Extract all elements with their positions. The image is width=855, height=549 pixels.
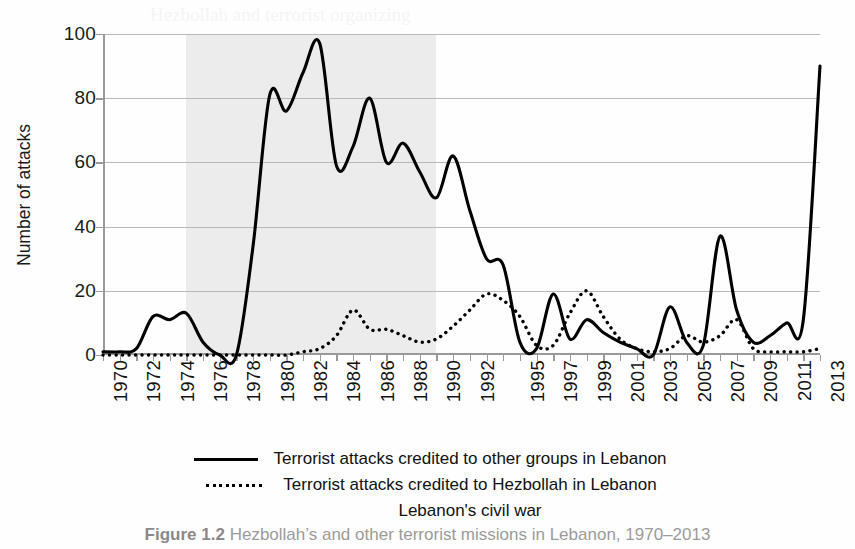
legend-label-civil-war: Lebanon's civil war	[398, 501, 541, 521]
figure-number: Figure 1.2	[145, 525, 225, 544]
x-axis-tick-label: 2001	[627, 360, 649, 402]
y-axis-tick	[96, 291, 103, 292]
legend-label-hezbollah: Terrorist attacks credited to Hezbollah …	[283, 475, 656, 495]
x-axis-tick-label: 1988	[410, 360, 432, 402]
x-axis-tick	[820, 355, 821, 361]
legend-entry-hezbollah: Terrorist attacks credited to Hezbollah …	[0, 472, 855, 498]
x-axis-tick-label: 2007	[727, 360, 749, 402]
y-axis-tick-label: 40	[74, 216, 96, 238]
y-axis-tick-label: 100	[64, 23, 96, 45]
x-axis-tick-label: 1997	[560, 360, 582, 402]
x-axis-tick-label: 1974	[177, 360, 199, 402]
blank-swatch-icon	[313, 504, 389, 518]
x-axis-tick-label: 1970	[110, 360, 132, 402]
x-axis-tick-label: 1984	[343, 360, 365, 402]
series-line-other-groups	[103, 40, 820, 364]
plot-area	[103, 34, 820, 355]
y-axis-tick	[96, 227, 103, 228]
x-axis-tick-label: 2005	[694, 360, 716, 402]
y-axis-tick-label: 20	[74, 280, 96, 302]
x-axis-tick-label: 1982	[310, 360, 332, 402]
x-axis-tick-label: 2013	[827, 360, 849, 402]
y-axis-tick	[96, 98, 103, 99]
dotted-line-icon	[198, 478, 274, 492]
series-line-hezbollah	[103, 291, 820, 355]
y-axis-tick-label: 80	[74, 87, 96, 109]
y-axis-tick-label: 60	[74, 151, 96, 173]
x-axis-tick-label: 1986	[377, 360, 399, 402]
x-axis-tick-label: 1976	[210, 360, 232, 402]
figure-caption: Figure 1.2 Hezbollah’s and other terrori…	[0, 525, 855, 549]
solid-line-icon	[188, 452, 264, 466]
y-axis-tick-labels: 020406080100	[0, 34, 96, 355]
x-axis-tick-labels: 1970197219741976197819801982198419861988…	[103, 360, 820, 440]
scan-bleed-top: Hezbollah and terrorist organizing	[150, 4, 411, 26]
y-axis-tick	[96, 162, 103, 163]
x-axis-tick-label: 1980	[277, 360, 299, 402]
y-axis-tick	[96, 34, 103, 35]
figure-caption-text: Hezbollah’s and other terrorist missions…	[230, 525, 711, 544]
figure-chart: Hezbollah and terrorist organizing Numbe…	[0, 0, 855, 549]
legend-entry-civil-war: Lebanon's civil war	[0, 498, 855, 524]
x-axis-tick-label: 1990	[443, 360, 465, 402]
x-axis-tick-label: 1992	[477, 360, 499, 402]
legend-entry-other-groups: Terrorist attacks credited to other grou…	[0, 446, 855, 472]
series-lines	[103, 34, 820, 355]
x-axis-tick-label: 1978	[243, 360, 265, 402]
x-axis-tick-label: 2003	[660, 360, 682, 402]
x-axis-tick-label: 2011	[794, 360, 816, 401]
x-axis-tick-label: 1972	[143, 360, 165, 402]
x-axis-tick-label: 2009	[760, 360, 782, 402]
x-axis-tick-label: 1999	[594, 360, 616, 402]
y-axis-tick-label: 0	[85, 344, 96, 366]
legend-label-other-groups: Terrorist attacks credited to other grou…	[273, 449, 666, 469]
chart-legend: Terrorist attacks credited to other grou…	[0, 446, 855, 524]
x-axis-tick-label: 1995	[527, 360, 549, 402]
